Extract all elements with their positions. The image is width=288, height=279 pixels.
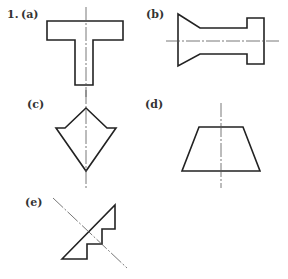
figures-canvas <box>0 0 288 279</box>
figure-a-outline <box>47 21 123 85</box>
figure-b-outline <box>178 14 264 66</box>
